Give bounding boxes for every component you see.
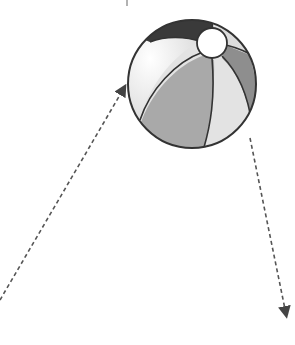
- incoming-trajectory-arrow: [0, 88, 124, 300]
- beach-ball-diagram: [0, 0, 295, 345]
- outgoing-trajectory-arrow: [250, 138, 286, 314]
- ball-cap: [197, 28, 227, 58]
- beach-ball: [128, 14, 260, 160]
